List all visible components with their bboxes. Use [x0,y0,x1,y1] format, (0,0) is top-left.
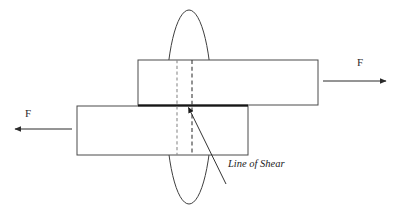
lower-plate [77,106,248,155]
force-label-left: F [25,107,31,119]
shear-diagram-canvas: F F Line of Shear [0,0,403,217]
upper-plate [138,60,318,105]
shear-diagram-figure: F F Line of Shear [0,0,403,217]
line-of-shear-label: Line of Shear [227,158,285,169]
force-label-right: F [357,56,363,68]
